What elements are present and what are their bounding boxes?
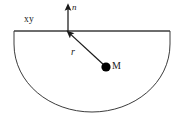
normal-vector-label: n (72, 3, 77, 12)
xy-plane-label: xy (24, 15, 34, 25)
hemisphere-diagram: xy n r M (0, 0, 183, 116)
radius-vector-label: r (71, 47, 75, 57)
mass-point-dot (101, 62, 110, 71)
half-disk-outline (14, 31, 170, 112)
mass-point-label: M (112, 61, 121, 71)
